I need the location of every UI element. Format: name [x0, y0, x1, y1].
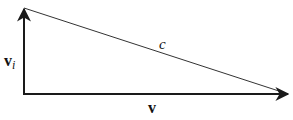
- hypotenuse-line-c: [24, 8, 285, 93]
- vector-triangle-diagram: vi v c: [0, 0, 293, 120]
- label-c: c: [159, 36, 166, 52]
- label-vi: vi: [4, 52, 15, 72]
- label-v: v: [148, 99, 156, 116]
